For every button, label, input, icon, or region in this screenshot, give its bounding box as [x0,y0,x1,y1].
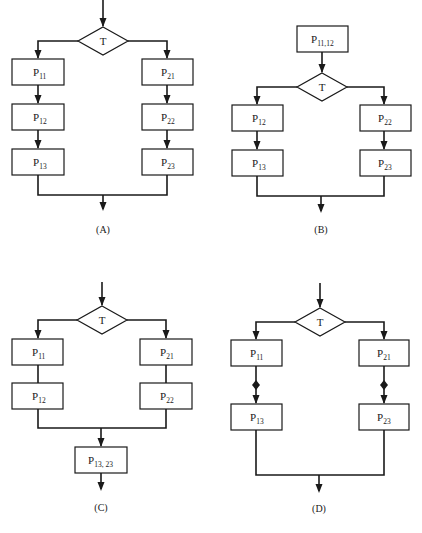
decision-label: T [100,35,107,47]
left-branch-line [38,320,77,338]
panel-caption: (B) [314,224,327,236]
arrowhead-icon [98,482,105,491]
left-branch-line [257,87,297,104]
panel-caption: (A) [96,224,110,236]
decision-label: T [99,314,106,326]
arrowhead-icon [381,96,388,105]
panel-c: T P11 P12 P21 P22 P13, 23 (C) [12,282,192,514]
sync-diamond-icon [252,380,260,390]
arrowhead-icon [253,331,260,340]
arrowhead-icon [316,484,323,493]
decision-label: T [319,81,326,93]
arrowhead-icon [35,50,42,59]
arrowhead-icon [317,299,324,308]
sync-diamond-icon [380,380,388,390]
left-branch-line [256,322,295,339]
arrowhead-icon [98,438,105,447]
join-line [38,175,167,195]
arrowhead-icon [99,297,106,306]
flowchart-figure: T P11 P12 P13 P21 P22 P23 (A) [0,0,422,533]
arrowhead-icon [381,141,388,150]
arrowhead-icon [35,330,42,339]
panel-caption: (C) [94,502,107,514]
arrowhead-icon [381,395,388,404]
arrowhead-icon [253,395,260,404]
panel-a: T P11 P12 P13 P21 P22 P23 (A) [12,0,193,236]
arrowhead-icon [254,141,261,150]
right-branch-line [345,322,384,339]
arrowhead-icon [318,204,325,213]
join-line [256,430,384,475]
arrowhead-icon [100,18,107,27]
right-branch-line [347,87,384,104]
right-branch-line [127,320,166,338]
arrowhead-icon [35,140,42,149]
arrowhead-icon [164,95,171,104]
arrowhead-icon [254,96,261,105]
arrowhead-icon [381,331,388,340]
left-branch-line [38,41,78,58]
right-branch-line [128,41,167,58]
arrowhead-icon [100,202,107,211]
join-line [257,176,384,196]
panel-b: P11,12 T P12 P13 P22 P23 (B) [232,26,411,236]
arrowhead-icon [35,95,42,104]
arrowhead-icon [164,140,171,149]
panel-d: T P11 P13 P21 P23 (D) [231,283,409,515]
arrowhead-icon [319,64,326,73]
panel-caption: (D) [312,503,326,515]
decision-label: T [317,316,324,328]
arrowhead-icon [163,330,170,339]
join-line [38,409,166,428]
arrowhead-icon [164,50,171,59]
